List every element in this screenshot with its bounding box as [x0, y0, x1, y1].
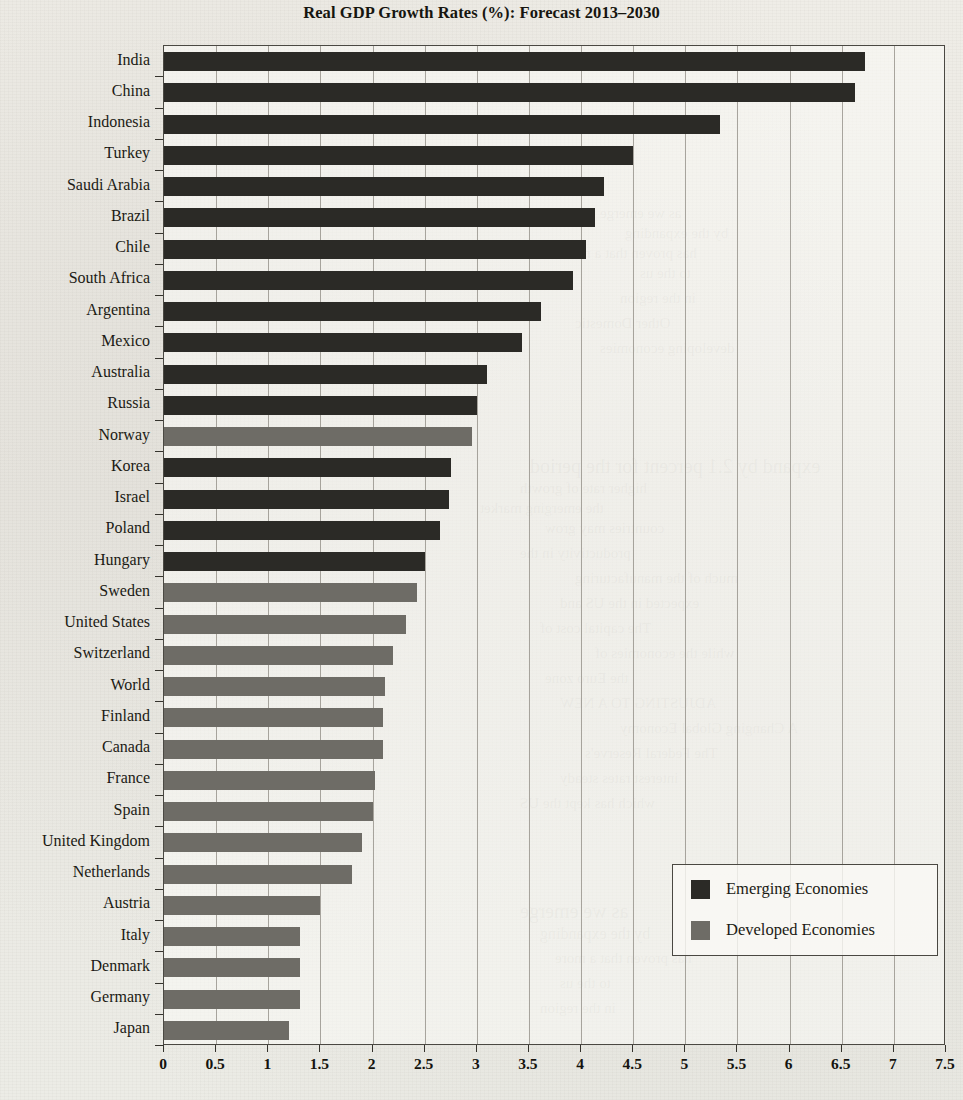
x-tick-label-5.5: 5.5 — [706, 1055, 766, 1073]
y-tick — [155, 358, 163, 359]
x-tick-0.5 — [215, 1045, 216, 1052]
x-tick-4 — [580, 1045, 581, 1052]
category-label-austria: Austria — [103, 894, 150, 912]
x-tick-label-4: 4 — [550, 1055, 610, 1073]
y-tick — [155, 326, 163, 327]
category-label-france: France — [106, 769, 150, 787]
category-label-korea: Korea — [111, 457, 150, 475]
category-label-saudi-arabia: Saudi Arabia — [67, 176, 150, 194]
y-tick — [155, 983, 163, 984]
chart-legend: Emerging Economies Developed Economies — [672, 864, 938, 956]
x-tick-label-0.5: 0.5 — [185, 1055, 245, 1073]
y-tick — [155, 764, 163, 765]
y-tick — [155, 545, 163, 546]
legend-swatch-emerging — [691, 880, 710, 899]
bar-brazil — [164, 208, 595, 227]
bar-united-states — [164, 615, 406, 634]
x-tick-1 — [267, 1045, 268, 1052]
y-tick — [155, 795, 163, 796]
bar-saudi-arabia — [164, 177, 604, 196]
bar-india — [164, 52, 865, 71]
bar-austria — [164, 896, 320, 915]
y-tick — [155, 483, 163, 484]
x-tick-2 — [372, 1045, 373, 1052]
bar-germany — [164, 990, 300, 1009]
x-tick-6 — [789, 1045, 790, 1052]
y-tick — [155, 420, 163, 421]
y-tick — [155, 1014, 163, 1015]
category-label-netherlands: Netherlands — [73, 863, 150, 881]
y-tick — [155, 889, 163, 890]
category-label-israel: Israel — [114, 488, 150, 506]
x-tick-label-1.5: 1.5 — [289, 1055, 349, 1073]
category-label-world: World — [110, 676, 150, 694]
y-tick — [155, 170, 163, 171]
bar-united-kingdom — [164, 833, 362, 852]
y-tick — [155, 514, 163, 515]
y-tick — [155, 701, 163, 702]
y-tick — [155, 295, 163, 296]
y-tick — [155, 233, 163, 234]
x-tick-label-7: 7 — [863, 1055, 923, 1073]
bar-argentina — [164, 302, 541, 321]
bar-hungary — [164, 552, 425, 571]
category-label-germany: Germany — [90, 988, 150, 1006]
bar-canada — [164, 740, 383, 759]
x-tick-label-6.5: 6.5 — [811, 1055, 871, 1073]
x-tick-1.5 — [319, 1045, 320, 1052]
y-tick — [155, 576, 163, 577]
y-tick — [155, 264, 163, 265]
y-tick — [155, 858, 163, 859]
category-label-brazil: Brazil — [111, 207, 150, 225]
category-label-australia: Australia — [91, 363, 150, 381]
y-tick — [155, 951, 163, 952]
category-label-chile: Chile — [115, 238, 150, 256]
bar-sweden — [164, 583, 417, 602]
category-label-russia: Russia — [107, 394, 150, 412]
x-tick-2.5 — [424, 1045, 425, 1052]
x-tick-7.5 — [945, 1045, 946, 1052]
category-label-sweden: Sweden — [99, 582, 150, 600]
y-tick — [155, 139, 163, 140]
legend-label-emerging: Emerging Economies — [726, 879, 868, 899]
y-tick — [155, 1045, 163, 1046]
legend-item-developed: Developed Economies — [691, 920, 875, 940]
y-tick — [155, 608, 163, 609]
x-tick-label-6: 6 — [759, 1055, 819, 1073]
category-label-mexico: Mexico — [101, 332, 150, 350]
bar-france — [164, 771, 375, 790]
x-tick-0 — [163, 1045, 164, 1052]
category-label-finland: Finland — [101, 707, 150, 725]
category-label-indonesia: Indonesia — [88, 113, 150, 131]
legend-item-emerging: Emerging Economies — [691, 879, 868, 899]
bar-turkey — [164, 146, 633, 165]
category-label-united-states: United States — [64, 613, 150, 631]
bar-russia — [164, 396, 477, 415]
x-tick-label-3.5: 3.5 — [498, 1055, 558, 1073]
x-tick-label-2.5: 2.5 — [394, 1055, 454, 1073]
y-tick — [155, 670, 163, 671]
category-label-argentina: Argentina — [86, 301, 150, 319]
y-tick — [155, 76, 163, 77]
bar-chile — [164, 240, 586, 259]
category-label-italy: Italy — [121, 926, 150, 944]
bar-italy — [164, 927, 300, 946]
x-tick-3.5 — [528, 1045, 529, 1052]
x-tick-label-7.5: 7.5 — [915, 1055, 963, 1073]
bar-finland — [164, 708, 383, 727]
bar-switzerland — [164, 646, 393, 665]
y-tick — [155, 108, 163, 109]
x-tick-label-3: 3 — [446, 1055, 506, 1073]
bar-indonesia — [164, 115, 720, 134]
x-tick-label-2: 2 — [342, 1055, 402, 1073]
legend-label-developed: Developed Economies — [726, 920, 875, 940]
x-tick-3 — [476, 1045, 477, 1052]
category-label-poland: Poland — [106, 519, 150, 537]
bar-south-africa — [164, 271, 573, 290]
category-label-india: India — [117, 51, 150, 69]
bar-netherlands — [164, 865, 352, 884]
category-label-china: China — [112, 82, 150, 100]
category-label-turkey: Turkey — [104, 144, 150, 162]
x-tick-5.5 — [736, 1045, 737, 1052]
y-tick — [155, 639, 163, 640]
